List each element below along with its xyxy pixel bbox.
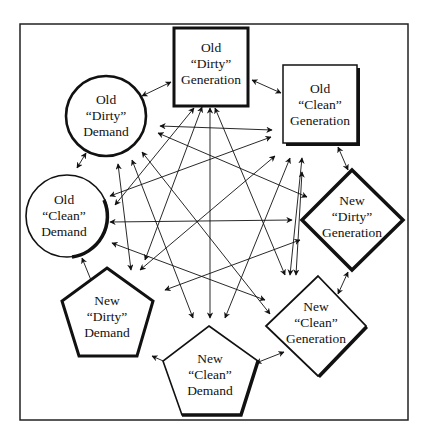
node-new-clean-demand: New “Clean” Demand	[163, 326, 258, 415]
node-new-clean-generation: New “Clean” Generation	[266, 276, 368, 378]
node-label-line: New	[303, 299, 329, 314]
node-old-dirty-demand: Old “Dirty” Demand	[66, 76, 146, 156]
node-label-line: New	[197, 351, 223, 366]
network-diagram: Old “Dirty” Generation Old “Clean” Gener…	[0, 0, 426, 436]
node-new-dirty-generation: New “Dirty” Generation	[302, 170, 403, 270]
node-label-line: Generation	[322, 225, 382, 240]
node-label-line: “Dirty”	[87, 309, 127, 324]
node-old-dirty-generation: Old “Dirty” Generation	[174, 28, 248, 106]
node-label-line: Generation	[181, 72, 241, 87]
node-label-line: Demand	[83, 124, 129, 139]
node-label-line: “Clean”	[188, 367, 231, 382]
node-label-line: Old	[201, 40, 222, 55]
node-label-line: New	[94, 293, 120, 308]
node-label-line: Old	[310, 81, 331, 96]
node-label-line: “Clean”	[42, 208, 85, 223]
node-old-clean-demand: Old “Clean” Demand	[26, 175, 108, 257]
node-label-line: “Dirty”	[332, 209, 372, 224]
node-label-line: Old	[54, 192, 75, 207]
node-label-line: Demand	[41, 224, 87, 239]
node-label-line: Generation	[286, 331, 346, 346]
node-new-dirty-demand: New “Dirty” Demand	[62, 268, 153, 356]
node-label-line: “Dirty”	[191, 56, 231, 71]
node-label-line: Old	[96, 92, 117, 107]
node-label-line: New	[339, 193, 365, 208]
node-label-line: “Clean”	[298, 97, 341, 112]
node-old-clean-generation: Old “Clean” Generation	[283, 65, 360, 146]
node-label-line: “Clean”	[294, 315, 337, 330]
node-label-line: Demand	[187, 383, 233, 398]
node-label-line: “Dirty”	[86, 108, 126, 123]
node-label-line: Generation	[290, 113, 350, 128]
node-label-line: Demand	[84, 325, 130, 340]
